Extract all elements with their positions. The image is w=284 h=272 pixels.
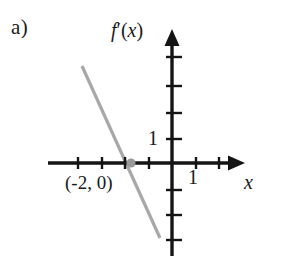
x-intercept-annotation: (-2, 0) [65,173,112,192]
y-axis [165,29,183,256]
x-axis-label: x [244,172,253,192]
panel-label: a) [11,17,28,38]
x-axis [48,156,245,171]
x-intercept-point [126,158,135,167]
x-axis-tick-label-1: 1 [188,167,198,187]
y-axis-tick-label-1: 1 [148,128,158,148]
y-axis-label: f′(x) [111,20,143,40]
figure-panel: a) f′(x) x 1 1 (-2, 0) [0,0,284,272]
derivative-line [82,66,160,238]
y-axis-label-argument: (x) [121,19,143,41]
